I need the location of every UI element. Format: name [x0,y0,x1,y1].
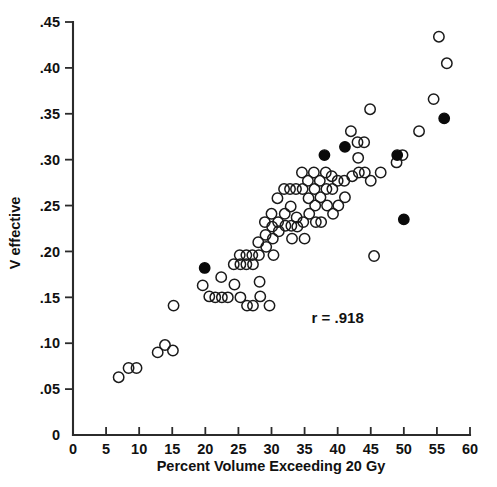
x-axis-ticks [106,427,470,435]
data-point-filled [199,263,209,273]
data-point-open [197,280,207,290]
data-point-open [359,137,369,147]
y-axis-ticks [65,22,73,389]
x-tick-label: 5 [102,441,110,457]
data-point-open [113,372,123,382]
x-axis-title: Percent Volume Exceeding 20 Gy [157,458,386,474]
scatter-plot-figure: 0.05.10.15.20.25.30.35.40.45 05101520253… [0,0,497,487]
data-point-layer [113,31,452,382]
y-tick-label: .25 [40,198,60,214]
data-point-open [346,126,356,136]
x-tick-label: 50 [396,441,412,457]
data-point-filled [439,113,449,123]
plot-canvas: 0.05.10.15.20.25.30.35.40.45 05101520253… [0,0,497,487]
y-tick-label: .20 [40,244,60,260]
data-point-open [287,233,297,243]
y-tick-label: .40 [40,60,60,76]
data-point-open [369,251,379,261]
x-tick-label: 25 [230,441,246,457]
correlation-annotation: r = .918 [312,309,364,326]
x-tick-label: 55 [429,441,445,457]
y-tick-label: 0 [52,427,60,443]
data-point-open [442,58,452,68]
data-point-open [366,176,376,186]
data-point-open [131,363,141,373]
data-point-open [254,277,264,287]
data-point-open [280,209,290,219]
data-point-open [285,184,295,194]
data-point-open [264,300,274,310]
data-point-open [299,233,309,243]
data-point-open [414,126,424,136]
x-tick-label: 35 [297,441,313,457]
x-tick-label: 40 [330,441,346,457]
x-tick-label: 20 [197,441,213,457]
data-point-open [216,272,226,282]
data-point-filled [399,214,409,224]
data-point-filled [392,150,402,160]
y-tick-label: .30 [40,152,60,168]
x-tick-label: 0 [69,441,77,457]
x-axis-tick-labels: 051015202530354045505560 [69,441,478,457]
x-tick-label: 10 [131,441,147,457]
data-point-open [321,184,331,194]
data-point-open [353,153,363,163]
data-point-filled [319,150,329,160]
data-point-open [272,193,282,203]
axes [73,22,470,435]
y-axis-title: V effective [7,197,23,270]
data-point-open [365,104,375,114]
data-point-open [229,279,239,289]
data-point-filled [340,142,350,152]
x-tick-label: 60 [462,441,478,457]
y-tick-label: .15 [40,290,60,306]
data-point-open [285,201,295,211]
data-point-open [428,94,438,104]
data-point-open [279,184,289,194]
x-tick-label: 45 [363,441,379,457]
data-point-open [339,176,349,186]
data-point-open [375,167,385,177]
y-tick-label: .05 [40,381,60,397]
data-point-open [434,31,444,41]
caption-fragment [0,473,497,487]
x-tick-label: 15 [164,441,180,457]
data-point-open [268,250,278,260]
data-point-open [168,300,178,310]
data-point-open [168,345,178,355]
data-point-open [340,192,350,202]
data-point-open [321,167,331,177]
y-tick-label: .35 [40,106,60,122]
y-tick-label: .10 [40,335,60,351]
data-point-open [255,291,265,301]
y-axis-tick-labels: 0.05.10.15.20.25.30.35.40.45 [40,14,60,443]
y-tick-label: .45 [40,14,60,30]
annotation-layer: r = .918 [312,309,364,326]
x-tick-label: 30 [263,441,279,457]
